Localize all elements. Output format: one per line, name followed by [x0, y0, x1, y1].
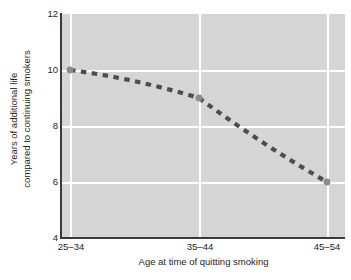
y-axis-title-line1: Years of additional life: [7, 50, 20, 187]
y-tick-label-4: 4: [38, 233, 58, 243]
data-series-svg: [62, 14, 345, 238]
y-tick-label-12: 12: [38, 9, 58, 19]
chart-figure: Years of additional life compared to con…: [0, 0, 351, 280]
y-axis-line: [60, 13, 62, 239]
x-tick-label-35-44: 35–44: [187, 241, 213, 253]
series-markers: [67, 67, 331, 186]
y-tick-label-6: 6: [38, 177, 58, 187]
y-axis-tick-labels: 12 10 8 6 4: [38, 0, 58, 280]
plot-area: [62, 14, 345, 238]
y-axis-title: Years of additional life compared to con…: [0, 0, 40, 238]
x-axis-line: [60, 237, 345, 239]
y-axis-title-line2: compared to continuing smokers: [20, 50, 33, 187]
y-tick-label-8: 8: [38, 121, 58, 131]
data-point-45-54: [324, 179, 331, 186]
x-axis-title: Age at time of quitting smoking: [62, 256, 345, 267]
x-tick-label-45-54: 45–54: [314, 241, 340, 253]
data-point-25-34: [67, 67, 74, 74]
x-tick-label-25-34: 25–34: [58, 241, 84, 253]
y-axis-title-text: Years of additional life compared to con…: [7, 50, 33, 187]
data-point-35-44: [196, 95, 203, 102]
series-line-dashed: [70, 70, 327, 182]
y-tick-label-10: 10: [38, 65, 58, 75]
